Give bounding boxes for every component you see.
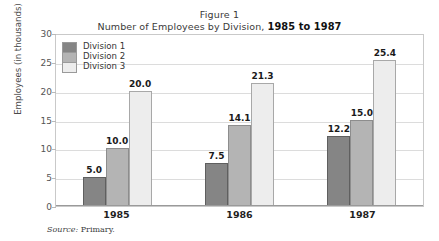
legend-swatch-division-3 bbox=[63, 62, 76, 72]
y-tick-mark bbox=[52, 121, 56, 122]
bar-value-label: 12.2 bbox=[328, 124, 350, 134]
y-axis-ticks: 302520151050 bbox=[26, 0, 52, 241]
bar[interactable] bbox=[251, 83, 274, 206]
y-tick-mark bbox=[52, 63, 56, 64]
legend: Division 1 Division 2 Division 3 bbox=[62, 42, 125, 73]
y-tick-mark bbox=[52, 34, 56, 35]
y-tick-label: 20 bbox=[30, 87, 52, 97]
bar-value-label: 25.4 bbox=[374, 48, 396, 58]
bar[interactable] bbox=[205, 163, 228, 206]
y-tick-label: 30 bbox=[30, 29, 52, 39]
figure-title: Figure 1 Number of Employees by Division… bbox=[0, 9, 439, 32]
bar-slot: 12.2 bbox=[327, 35, 350, 206]
bar[interactable] bbox=[228, 125, 251, 206]
x-tick-label: 1985 bbox=[55, 209, 178, 220]
legend-labels: Division 1 Division 2 Division 3 bbox=[83, 42, 125, 71]
bar-group: 7.514.121.3 bbox=[178, 35, 300, 206]
bar[interactable] bbox=[373, 60, 396, 206]
bar-value-label: 14.1 bbox=[228, 113, 250, 123]
bar-value-label: 21.3 bbox=[251, 71, 273, 81]
y-tick-mark bbox=[52, 149, 56, 150]
bar-value-label: 15.0 bbox=[351, 108, 373, 118]
bar-slot: 25.4 bbox=[373, 35, 396, 206]
plot-area: 5.010.020.07.514.121.312.215.025.4 Divis… bbox=[55, 34, 424, 207]
figure-subtitle-text: Number of Employees by Division, bbox=[97, 21, 264, 32]
bar-slot: 7.5 bbox=[205, 35, 228, 206]
source-value: Primary. bbox=[81, 225, 115, 234]
bar-group: 12.215.025.4 bbox=[301, 35, 423, 206]
bar-value-label: 20.0 bbox=[129, 79, 151, 89]
source-label: Source: bbox=[47, 225, 78, 234]
legend-swatch-division-2 bbox=[63, 52, 76, 62]
bar[interactable] bbox=[106, 148, 129, 206]
bar-value-label: 10.0 bbox=[106, 136, 128, 146]
y-axis-title: Employees (in thousands) bbox=[13, 0, 23, 139]
x-axis-line bbox=[56, 205, 423, 206]
legend-label-division-3: Division 3 bbox=[83, 62, 125, 71]
figure-subtitle: Number of Employees by Division, 1985 to… bbox=[0, 21, 439, 32]
x-tick-label: 1986 bbox=[178, 209, 301, 220]
bar[interactable] bbox=[350, 120, 373, 207]
bar-slot: 15.0 bbox=[350, 35, 373, 206]
legend-swatch-division-1 bbox=[63, 43, 76, 52]
y-tick-mark bbox=[52, 207, 56, 208]
y-tick-label: 5 bbox=[30, 173, 52, 183]
bar[interactable] bbox=[129, 91, 152, 206]
figure-container: Figure 1 Number of Employees by Division… bbox=[0, 0, 439, 241]
bar[interactable] bbox=[83, 177, 106, 206]
y-tick-label: 15 bbox=[30, 116, 52, 126]
bar-slot: 21.3 bbox=[251, 35, 274, 206]
figure-subtitle-years: 1985 to 1987 bbox=[268, 21, 342, 32]
legend-label-division-2: Division 2 bbox=[83, 52, 125, 61]
y-tick-label: 25 bbox=[30, 58, 52, 68]
bar-slot: 14.1 bbox=[228, 35, 251, 206]
bar-slot: 20.0 bbox=[129, 35, 152, 206]
legend-label-division-1: Division 1 bbox=[83, 42, 125, 51]
figure-number: Figure 1 bbox=[0, 9, 439, 20]
source-note: Source: Primary. bbox=[47, 225, 115, 234]
x-axis-labels: 198519861987 bbox=[55, 209, 424, 220]
bar[interactable] bbox=[327, 136, 350, 206]
legend-swatches bbox=[62, 42, 77, 73]
y-tick-mark bbox=[52, 92, 56, 93]
y-tick-label: 0 bbox=[30, 202, 52, 212]
bar-value-label: 7.5 bbox=[209, 151, 225, 161]
x-tick-label: 1987 bbox=[301, 209, 424, 220]
y-tick-mark bbox=[52, 178, 56, 179]
y-tick-label: 10 bbox=[30, 144, 52, 154]
bar-value-label: 5.0 bbox=[86, 165, 102, 175]
